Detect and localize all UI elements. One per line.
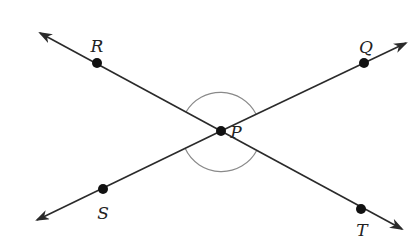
angle-RPQ-arc — [186, 92, 256, 114]
label-P: P — [229, 122, 242, 142]
point-P — [216, 126, 226, 136]
point-S — [98, 184, 108, 194]
label-Q: Q — [359, 37, 373, 57]
angle-SPT-arc — [185, 148, 257, 172]
label-T: T — [356, 220, 369, 240]
line-RT — [40, 33, 221, 131]
point-R — [92, 58, 102, 68]
point-Q — [359, 58, 369, 68]
line-SQ — [37, 131, 221, 220]
line-RT-lower — [221, 131, 402, 229]
intersecting-lines-diagram: R Q S T P — [0, 0, 414, 248]
point-T — [356, 204, 366, 214]
diagram-canvas: R Q S T P — [0, 0, 414, 248]
line-SQ-upper — [221, 43, 406, 131]
label-R: R — [90, 36, 104, 56]
label-S: S — [97, 203, 109, 223]
